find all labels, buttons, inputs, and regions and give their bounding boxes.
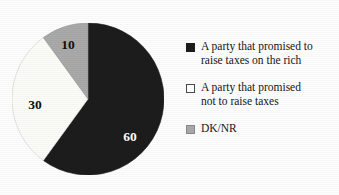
pie-chart: 60 30 10 bbox=[12, 23, 164, 175]
legend-swatch-icon bbox=[186, 43, 195, 52]
pie-label-60: 60 bbox=[123, 129, 137, 144]
pie-label-10: 10 bbox=[61, 37, 75, 52]
pie-label-30: 30 bbox=[28, 97, 42, 112]
chart-legend: A party that promised to raise taxes on … bbox=[186, 40, 336, 150]
legend-item-dk-nr[interactable]: DK/NR bbox=[186, 122, 336, 136]
pie-chart-figure: 60 30 10 A party that promised to raise … bbox=[0, 0, 339, 195]
legend-item-not-raise-taxes[interactable]: A party that promised not to raise taxes bbox=[186, 81, 336, 108]
legend-item-label: A party that promised not to raise taxes bbox=[201, 81, 301, 108]
legend-item-raise-taxes-on-the-rich[interactable]: A party that promised to raise taxes on … bbox=[186, 40, 336, 67]
legend-swatch-icon bbox=[186, 125, 195, 134]
pie-chart-svg: 60 30 10 bbox=[12, 23, 164, 175]
legend-item-label: DK/NR bbox=[201, 122, 237, 136]
legend-swatch-icon bbox=[186, 84, 195, 93]
legend-item-label: A party that promised to raise taxes on … bbox=[201, 40, 313, 67]
